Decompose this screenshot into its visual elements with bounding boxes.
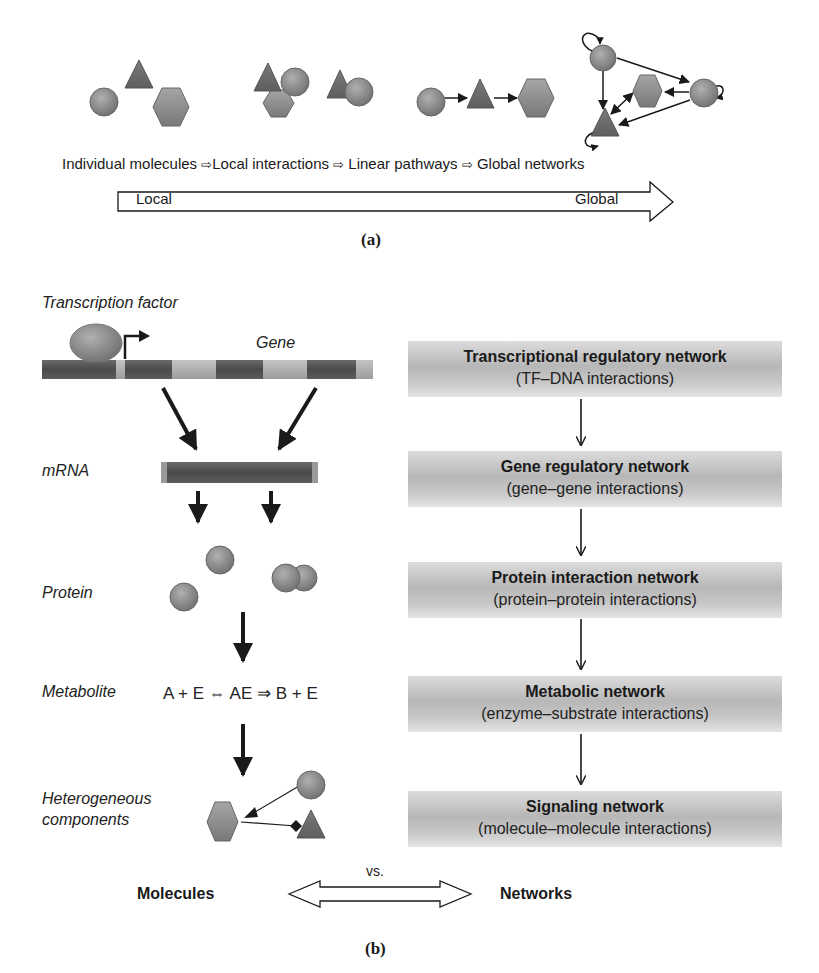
molecule-triangle-icon xyxy=(254,63,281,91)
mrna-strand-graphic xyxy=(161,462,318,483)
gene-strand-graphic xyxy=(42,360,373,379)
network-title: Signaling network xyxy=(408,796,782,818)
exon-segment xyxy=(356,360,373,379)
gene-label: Gene xyxy=(256,334,295,352)
network-node-triangle-icon xyxy=(591,108,619,136)
stage-separator-icon: ⇨ xyxy=(201,157,212,172)
stage-separator-icon: ⇨ xyxy=(462,157,473,172)
stage-local-interactions-graphic xyxy=(254,63,373,117)
molecules-label: Molecules xyxy=(137,885,214,903)
protein-label: Protein xyxy=(42,584,93,602)
network-box-signaling: Signaling network (molecule–molecule int… xyxy=(408,791,782,847)
exon-segment xyxy=(116,360,125,379)
network-subtitle: (protein–protein interactions) xyxy=(408,589,782,611)
network-box-transcriptional-regulatory: Transcriptional regulatory network (TF–D… xyxy=(408,341,782,397)
component-circle-icon xyxy=(297,771,325,799)
molecule-hexagon-icon xyxy=(153,88,189,126)
stage-label-local-interactions: Local interactions xyxy=(212,155,329,172)
molecule-triangle-icon xyxy=(467,79,494,108)
protein-icon xyxy=(170,583,198,611)
networks-label: Networks xyxy=(500,885,572,903)
network-node-circle-icon xyxy=(590,45,616,71)
molecule-circle-icon xyxy=(90,88,118,116)
network-node-circle-icon xyxy=(690,79,718,107)
stage-label-individual-molecules: Individual molecules xyxy=(62,155,197,172)
heterogeneous-label-line2: components xyxy=(42,811,129,829)
metabolite-label: Metabolite xyxy=(42,683,116,701)
heterogeneous-components-graphic xyxy=(207,771,325,841)
network-box-gene-regulatory: Gene regulatory network (gene–gene inter… xyxy=(408,451,782,507)
transcription-start-arrow-icon xyxy=(125,336,140,359)
molecule-hexagon-icon xyxy=(518,79,554,117)
component-triangle-icon xyxy=(297,810,325,838)
molecule-circle-icon xyxy=(345,78,373,106)
molecule-triangle-icon xyxy=(125,60,153,88)
stage-label-linear-pathways: Linear pathways xyxy=(348,155,457,172)
stage-linear-pathway-graphic xyxy=(417,79,554,117)
molecule-circle-icon xyxy=(417,88,445,116)
network-box-metabolic: Metabolic network (enzyme–substrate inte… xyxy=(408,676,782,732)
exon-segment xyxy=(172,360,216,379)
network-title: Gene regulatory network xyxy=(408,456,782,478)
panel-b-caption: (b) xyxy=(365,939,386,959)
inhibition-diamond-icon xyxy=(290,820,302,832)
stage-label-global-networks: Global networks xyxy=(477,155,585,172)
exon-segment xyxy=(263,360,307,379)
protein-molecules-graphic xyxy=(170,546,317,611)
scale-label-global: Global xyxy=(575,190,618,207)
transcription-factor-label: Transcription factor xyxy=(42,294,178,312)
network-node-hexagon-icon xyxy=(633,75,662,107)
network-title: Metabolic network xyxy=(408,681,782,703)
network-subtitle: (gene–gene interactions) xyxy=(408,478,782,500)
component-hexagon-icon xyxy=(207,802,238,841)
network-subtitle: (molecule–molecule interactions) xyxy=(408,818,782,840)
stage-global-network-graphic xyxy=(583,33,724,146)
network-subtitle: (enzyme–substrate interactions) xyxy=(408,703,782,725)
stage-separator-icon: ⇨ xyxy=(333,157,344,172)
panel-a-caption: (a) xyxy=(361,230,381,250)
transcription-factor-blob-icon xyxy=(70,324,122,362)
network-title: Transcriptional regulatory network xyxy=(408,346,782,368)
metabolite-equation: A + E ⇔ AE ⇒ B + E xyxy=(163,683,318,704)
network-title: Protein interaction network xyxy=(408,567,782,589)
heterogeneous-label-line1: Heterogeneous xyxy=(42,790,151,808)
mrna-label: mRNA xyxy=(42,462,89,480)
activation-arrowhead-icon xyxy=(244,807,258,818)
scale-label-local: Local xyxy=(136,190,172,207)
vs-label: vs. xyxy=(366,863,384,879)
stage-row: Individual molecules ⇨Local interactions… xyxy=(62,155,584,172)
network-box-protein-interaction: Protein interaction network (protein–pro… xyxy=(408,562,782,618)
stage-individual-molecules-graphic xyxy=(90,60,189,126)
protein-icon xyxy=(206,546,234,574)
molecules-vs-networks-arrow xyxy=(289,881,471,907)
network-subtitle: (TF–DNA interactions) xyxy=(408,368,782,390)
protein-dimer-icon xyxy=(272,564,300,592)
molecule-circle-icon xyxy=(281,68,309,96)
